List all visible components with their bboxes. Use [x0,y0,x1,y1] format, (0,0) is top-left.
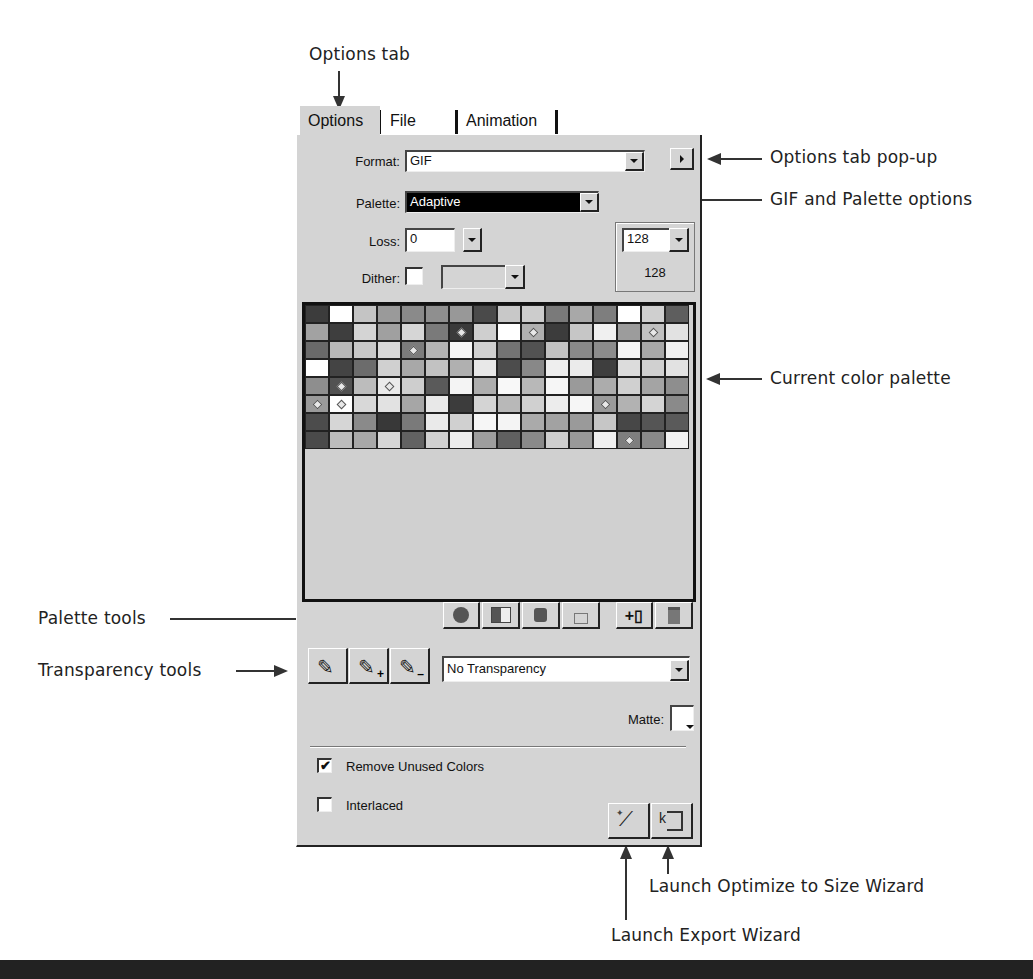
palette-swatch[interactable] [473,395,497,413]
palette-swatch[interactable] [401,377,425,395]
colors-select[interactable]: 128 [622,228,670,252]
palette-swatch[interactable] [425,431,449,449]
palette-swatch[interactable] [617,323,641,341]
palette-swatch[interactable] [353,323,377,341]
palette-swatch[interactable] [545,359,569,377]
palette-swatch[interactable] [593,431,617,449]
palette-swatch[interactable] [641,431,665,449]
palette-swatch[interactable] [305,359,329,377]
transparency-select[interactable]: No Transparency [442,656,690,682]
palette-swatch[interactable] [425,413,449,431]
palette-swatch[interactable] [569,359,593,377]
palette-swatch[interactable] [377,359,401,377]
palette-swatch[interactable] [569,431,593,449]
export-wizard-button[interactable]: ⟋ ✦ [608,803,650,839]
palette-swatch[interactable] [521,323,545,341]
palette-swatch[interactable] [353,341,377,359]
palette-swatch[interactable] [473,323,497,341]
palette-swatch[interactable] [353,413,377,431]
palette-swatch[interactable] [425,323,449,341]
palette-swatch[interactable] [593,359,617,377]
palette-swatch[interactable] [329,431,353,449]
palette-swatch[interactable] [545,341,569,359]
palette-swatch[interactable] [497,431,521,449]
palette-swatch[interactable] [473,431,497,449]
palette-swatch[interactable] [593,341,617,359]
palette-swatch[interactable] [449,359,473,377]
palette-swatch[interactable] [569,377,593,395]
palette-swatch[interactable] [329,359,353,377]
palette-swatch[interactable] [353,431,377,449]
palette-swatch[interactable] [305,323,329,341]
palette-swatch[interactable] [305,431,329,449]
palette-swatch[interactable] [377,377,401,395]
palette-swatch[interactable] [473,359,497,377]
colors-dropdown-button[interactable] [669,228,689,252]
palette-swatch[interactable] [665,305,689,323]
palette-swatch[interactable] [329,323,353,341]
palette-swatch[interactable] [377,323,401,341]
palette-swatch[interactable] [569,323,593,341]
palette-swatch[interactable] [473,341,497,359]
lock-color-button[interactable] [562,602,600,629]
palette-swatch[interactable] [617,305,641,323]
palette-swatch[interactable] [329,413,353,431]
palette-swatch[interactable] [449,413,473,431]
palette-swatch[interactable] [401,431,425,449]
palette-swatch[interactable] [665,395,689,413]
palette-swatch[interactable] [665,431,689,449]
palette-swatch[interactable] [353,395,377,413]
palette-swatch[interactable] [329,341,353,359]
palette-swatch[interactable] [401,359,425,377]
palette-swatch[interactable] [593,323,617,341]
palette-swatch[interactable] [641,413,665,431]
palette-swatch[interactable] [641,377,665,395]
palette-swatch[interactable] [521,413,545,431]
palette-swatch[interactable] [425,305,449,323]
palette-swatch[interactable] [617,359,641,377]
palette-swatch[interactable] [569,413,593,431]
palette-swatch[interactable] [449,323,473,341]
palette-swatch[interactable] [353,359,377,377]
palette-swatch[interactable] [377,413,401,431]
palette-swatch[interactable] [377,431,401,449]
palette-swatch[interactable] [377,341,401,359]
palette-swatch[interactable] [401,323,425,341]
palette-swatch[interactable] [425,395,449,413]
palette-swatch[interactable] [617,413,641,431]
palette-swatch[interactable] [401,305,425,323]
palette-swatch[interactable] [497,323,521,341]
palette-swatch[interactable] [545,395,569,413]
transparent-color-button[interactable] [482,602,520,629]
palette-swatch[interactable] [665,377,689,395]
tab-file[interactable]: File [382,106,452,136]
palette-swatch[interactable] [521,305,545,323]
palette-swatch[interactable] [305,305,329,323]
palette-swatch[interactable] [521,431,545,449]
palette-swatch[interactable] [497,341,521,359]
palette-swatch[interactable] [473,305,497,323]
palette-swatch[interactable] [545,377,569,395]
palette-swatch[interactable] [377,395,401,413]
palette-swatch[interactable] [329,305,353,323]
palette-swatch[interactable] [641,395,665,413]
optimize-to-size-wizard-button[interactable]: k [651,803,693,839]
add-color-button[interactable]: +▯ [616,602,653,629]
options-popup-button[interactable] [670,148,694,170]
transparency-dropdown-button[interactable] [670,660,689,681]
palette-swatch[interactable] [401,395,425,413]
palette-swatch[interactable] [449,305,473,323]
palette-swatch[interactable] [569,305,593,323]
palette-swatch[interactable] [593,305,617,323]
palette-swatch[interactable] [497,377,521,395]
add-transparency-button[interactable]: ✎ + [349,648,389,684]
palette-swatch[interactable] [377,305,401,323]
subtract-transparency-button[interactable]: ✎ – [390,648,430,684]
palette-swatch[interactable] [545,413,569,431]
dither-checkbox[interactable] [405,267,423,285]
palette-swatch[interactable] [305,377,329,395]
palette-swatch[interactable] [449,431,473,449]
palette-swatch[interactable] [473,413,497,431]
palette-swatch[interactable] [593,377,617,395]
palette-swatch[interactable] [641,323,665,341]
